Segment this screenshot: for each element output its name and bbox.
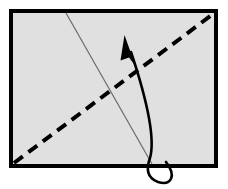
fold-diagram-canvas	[0, 0, 228, 189]
paper-sheet	[11, 11, 216, 166]
fold-diagram-container: Paper Fold Instruction Diagram	[0, 0, 228, 189]
